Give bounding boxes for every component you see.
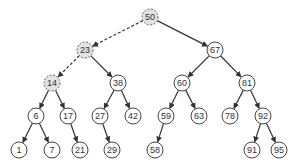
edge-92-95 — [266, 123, 275, 142]
edge-60-63 — [186, 90, 195, 108]
edge-50-23 — [93, 21, 143, 47]
tree-node-67: 67 — [207, 42, 223, 58]
edge-38-27 — [104, 90, 114, 109]
node-label: 95 — [274, 145, 284, 155]
tree-node-23: 23 — [77, 42, 93, 58]
edge-50-67 — [157, 21, 207, 47]
node-label: 14 — [47, 78, 57, 88]
tree-node-91: 91 — [244, 142, 260, 158]
tree-node-38: 38 — [110, 75, 126, 91]
node-label: 23 — [80, 45, 90, 55]
edge-81-92 — [250, 90, 259, 108]
tree-node-50: 50 — [142, 9, 158, 25]
node-label: 1 — [16, 145, 21, 155]
node-label: 7 — [49, 145, 54, 155]
tree-node-17: 17 — [60, 108, 76, 124]
tree-node-78: 78 — [222, 108, 238, 124]
edge-81-78 — [234, 90, 243, 108]
tree-node-59: 59 — [158, 108, 174, 124]
tree-node-95: 95 — [271, 142, 287, 158]
edge-92-91 — [255, 124, 261, 142]
node-label: 78 — [225, 111, 235, 121]
tree-node-21: 21 — [72, 142, 88, 158]
edge-14-6 — [40, 90, 49, 108]
edge-14-17 — [55, 90, 64, 108]
tree-node-29: 29 — [104, 142, 120, 158]
tree-node-63: 63 — [191, 108, 207, 124]
edge-17-21 — [71, 124, 78, 142]
tree-node-7: 7 — [44, 142, 60, 158]
node-label: 29 — [107, 145, 117, 155]
edge-59-58 — [158, 124, 164, 142]
edge-38-42 — [121, 90, 129, 108]
node-label: 50 — [145, 12, 155, 22]
edge-27-29 — [103, 124, 110, 142]
tree-nodes: 5023671438608161727425963789217212958919… — [11, 9, 287, 158]
node-label: 38 — [113, 78, 123, 88]
node-label: 58 — [150, 145, 160, 155]
binary-search-tree-diagram: 5023671438608161727425963789217212958919… — [0, 0, 296, 167]
node-label: 92 — [258, 111, 268, 121]
node-label: 42 — [128, 111, 138, 121]
node-label: 27 — [95, 111, 105, 121]
node-label: 81 — [242, 78, 252, 88]
node-label: 59 — [161, 111, 171, 121]
tree-node-92: 92 — [255, 108, 271, 124]
node-label: 17 — [63, 111, 73, 121]
node-label: 60 — [177, 78, 187, 88]
tree-node-60: 60 — [174, 75, 190, 91]
edge-23-14 — [58, 56, 79, 77]
tree-node-42: 42 — [125, 108, 141, 124]
tree-node-14: 14 — [44, 75, 60, 91]
node-label: 63 — [194, 111, 204, 121]
edge-67-81 — [221, 56, 242, 77]
tree-node-81: 81 — [239, 75, 255, 91]
edge-60-59 — [170, 90, 179, 108]
tree-edges — [23, 21, 276, 143]
tree-node-6: 6 — [28, 108, 44, 124]
edge-23-38 — [91, 56, 112, 77]
tree-node-1: 1 — [11, 142, 27, 158]
node-label: 6 — [33, 111, 38, 121]
tree-node-27: 27 — [92, 108, 108, 124]
edge-67-60 — [188, 56, 209, 77]
edge-6-1 — [23, 123, 33, 142]
edge-6-7 — [39, 123, 48, 142]
node-label: 67 — [210, 45, 220, 55]
tree-node-58: 58 — [147, 142, 163, 158]
node-label: 21 — [75, 145, 85, 155]
node-label: 91 — [247, 145, 257, 155]
